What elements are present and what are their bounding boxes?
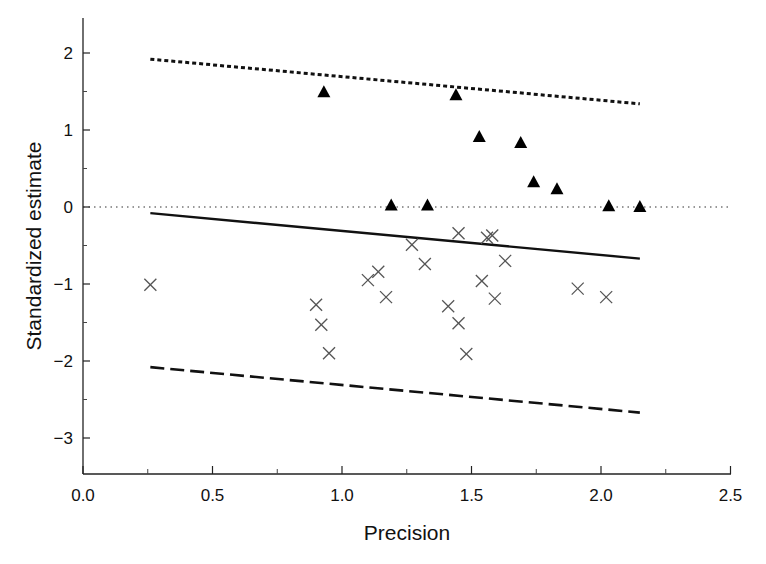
x-tick-label: 1.0 bbox=[330, 486, 354, 505]
cross-marker bbox=[453, 227, 465, 239]
x-tick-label: 2.5 bbox=[719, 486, 743, 505]
triangle-marker bbox=[550, 182, 563, 194]
cross-marker bbox=[600, 291, 612, 303]
upper-bound-line bbox=[150, 59, 640, 104]
x-tick-label: 0.5 bbox=[201, 486, 225, 505]
y-tick-label: 1 bbox=[64, 121, 73, 140]
triangle-marker bbox=[514, 136, 527, 148]
cross-marker bbox=[362, 274, 374, 286]
y-tick-label: −2 bbox=[54, 352, 73, 371]
cross-marker bbox=[453, 317, 465, 329]
y-tick-label: −3 bbox=[54, 429, 73, 448]
y-axis-title: Standardized estimate bbox=[22, 142, 45, 351]
cross-marker bbox=[476, 275, 488, 287]
triangle-marker bbox=[317, 85, 330, 97]
cross-marker bbox=[323, 347, 335, 359]
y-tick-label: 2 bbox=[64, 44, 73, 63]
x-tick-label: 0.0 bbox=[71, 486, 95, 505]
y-tick-label: −1 bbox=[54, 275, 73, 294]
cross-marker bbox=[310, 299, 322, 311]
cross-marker bbox=[489, 293, 501, 305]
triangle-marker bbox=[602, 199, 615, 211]
cross-marker bbox=[460, 348, 472, 360]
cross-marker bbox=[419, 258, 431, 270]
cross-marker bbox=[486, 229, 498, 241]
x-axis-title: Precision bbox=[364, 521, 450, 544]
cross-marker bbox=[144, 279, 156, 291]
lower-bound-line bbox=[150, 367, 640, 412]
funnel-scatter-chart: 210−1−2−30.00.51.01.52.02.5 Precision St… bbox=[0, 0, 766, 564]
triangle-marker bbox=[473, 130, 486, 142]
triangle-marker bbox=[633, 200, 646, 212]
axes: 210−1−2−30.00.51.01.52.02.5 bbox=[54, 18, 743, 505]
cross-marker bbox=[572, 283, 584, 295]
data-points bbox=[144, 85, 646, 360]
cross-marker bbox=[380, 291, 392, 303]
cross-marker bbox=[406, 239, 418, 251]
triangle-marker bbox=[527, 175, 540, 187]
regression-line bbox=[150, 213, 640, 258]
cross-marker bbox=[442, 300, 454, 312]
x-tick-label: 2.0 bbox=[589, 486, 613, 505]
cross-marker bbox=[499, 255, 511, 267]
reference-lines bbox=[83, 59, 729, 412]
triangle-marker bbox=[385, 198, 398, 210]
cross-marker bbox=[315, 319, 327, 331]
triangle-marker bbox=[421, 198, 434, 210]
y-tick-label: 0 bbox=[64, 198, 73, 217]
cross-marker bbox=[372, 266, 384, 278]
x-tick-label: 1.5 bbox=[460, 486, 484, 505]
triangle-marker bbox=[449, 88, 462, 100]
